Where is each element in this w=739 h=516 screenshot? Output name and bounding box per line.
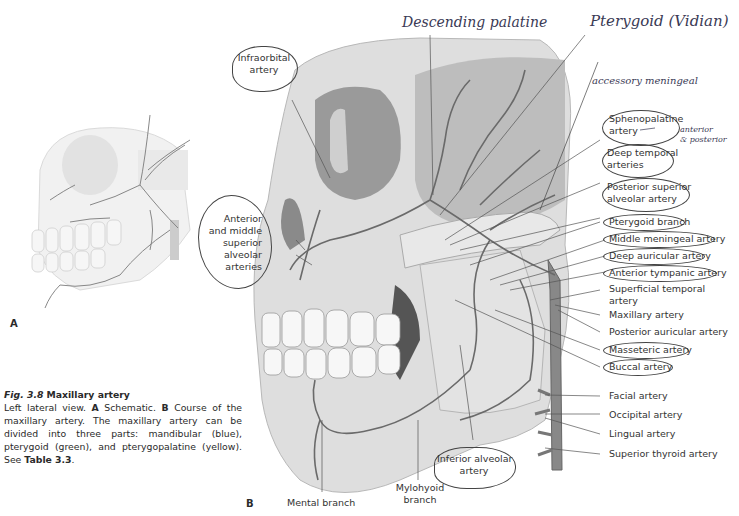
- label-anterior-tympanic-artery: Anterior tympanic artery: [609, 267, 727, 279]
- label-maxillary-artery: Maxillary artery: [609, 309, 684, 321]
- label-line: Deep temporal: [607, 147, 678, 159]
- label-line: alveolar: [200, 249, 262, 261]
- label-posterior-auricular-artery: Posterior auricular artery: [609, 326, 728, 338]
- label-line: arteries: [607, 159, 678, 171]
- label-superficial-temporal-artery: Superficial temporal artery: [609, 283, 705, 307]
- label-lingual-artery: Lingual artery: [609, 428, 675, 440]
- label-pterygoid-branch: Pterygoid branch: [609, 216, 690, 228]
- label-occipital-artery: Occipital artery: [609, 409, 682, 421]
- handwritten-line: & posterior: [680, 135, 727, 145]
- label-superior-thyroid-artery: Superior thyroid artery: [609, 448, 718, 460]
- handwritten-pterygoid-vidian: Pterygoid (Vidian): [590, 12, 729, 30]
- label-middle-meningeal-artery: Middle meningeal artery: [609, 233, 725, 245]
- label-line: artery: [609, 295, 705, 307]
- label-line: Infraorbital: [236, 52, 292, 64]
- label-sphenopalatine-artery: Sphenopalatine artery: [609, 113, 683, 137]
- label-line: arteries: [200, 261, 262, 273]
- handwritten-descending-palatine: Descending palatine: [402, 14, 547, 30]
- label-anterior-middle-superior-alveolar: Anterior and middle superior alveolar ar…: [200, 213, 262, 273]
- label-line: Mylohyoid: [390, 482, 450, 494]
- label-line: artery: [609, 125, 683, 137]
- handwritten-line: anterior: [680, 125, 727, 135]
- label-deep-temporal-arteries: Deep temporal arteries: [607, 147, 678, 171]
- label-line: superior: [200, 237, 262, 249]
- panel-b-label: B: [246, 498, 254, 509]
- label-inferior-alveolar-artery: Inferior alveolar artery: [437, 453, 511, 477]
- label-facial-artery: Facial artery: [609, 390, 668, 402]
- handwritten-accessory-meningeal: accessory meningeal: [592, 75, 698, 86]
- label-masseteric-artery: Masseteric artery: [609, 344, 692, 356]
- label-line: artery: [236, 64, 292, 76]
- label-line: Superficial temporal: [609, 283, 705, 295]
- label-line: alveolar artery: [607, 193, 691, 205]
- label-line: Anterior: [200, 213, 262, 225]
- label-infraorbital-artery: Infraorbital artery: [236, 52, 292, 76]
- label-line: artery: [437, 465, 511, 477]
- label-line: Sphenopalatine: [609, 113, 683, 125]
- label-buccal-artery: Buccal artery: [609, 361, 672, 373]
- label-posterior-superior-alveolar-artery: Posterior superior alveolar artery: [607, 181, 691, 205]
- label-line: and middle: [200, 225, 262, 237]
- label-line: Posterior superior: [607, 181, 691, 193]
- label-line: Inferior alveolar: [437, 453, 511, 465]
- label-mental-branch: Mental branch: [287, 497, 355, 509]
- label-deep-auricular-artery: Deep auricular artery: [609, 250, 711, 262]
- handwritten-anterior-posterior: anterior & posterior: [680, 125, 727, 145]
- label-mylohyoid-branch: Mylohyoid branch: [390, 482, 450, 506]
- label-line: branch: [390, 494, 450, 506]
